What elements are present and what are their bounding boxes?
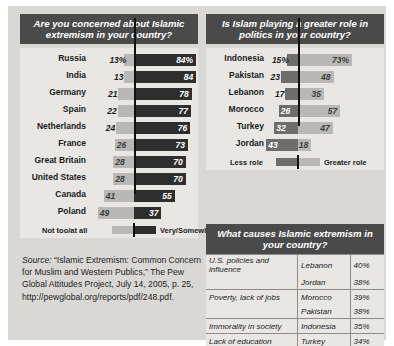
table-row: Lack of educationTurkey34% [206, 334, 384, 346]
chart-row: Lebanon1735 [206, 86, 384, 103]
country-cell: Indonesia [298, 319, 351, 334]
country-cell: Lebanon [298, 255, 351, 276]
bar-not-too-at-all [118, 88, 134, 100]
value-label-right: 76 [134, 123, 187, 133]
value-label-right: 84 [134, 72, 193, 82]
category-label: Great Britain [20, 155, 86, 165]
chart-row: United States2870 [20, 171, 198, 188]
value-label-left: 26 [281, 106, 290, 116]
category-label: Pakistan [206, 70, 264, 80]
value-label-left: 21 [103, 89, 117, 99]
value-label-left: 13 [109, 72, 123, 82]
category-label: Canada [20, 189, 86, 199]
zero-axis-line [134, 18, 136, 194]
percent-cell: 40% [350, 255, 384, 276]
chart-row: France2673 [20, 137, 198, 154]
panel-islam-politics: Is Islam playing a greater role in polit… [206, 14, 384, 170]
legend-label-right: Greater role [324, 158, 367, 167]
value-label-left: 22 [103, 106, 117, 116]
panel-title-causes: What causes Islamic extremism in your co… [206, 224, 384, 254]
value-label-left: 23 [266, 72, 280, 82]
value-label-right: 73 [134, 140, 185, 150]
chart-row: India1384 [20, 69, 198, 86]
percent-cell: 38% [350, 304, 384, 319]
country-cell: Jordan [298, 275, 351, 290]
category-label: Poland [20, 206, 86, 216]
category-label: France [20, 138, 86, 148]
bar-not-too-at-all [118, 105, 134, 117]
chart-rows-concern: Russia13%84%India1384Germany2178Spain227… [20, 52, 198, 222]
causes-table: U.S. policies and influenceLebanon40%Jor… [206, 254, 384, 346]
panel-title-concern: Are you concerned about Islamic extremis… [20, 14, 198, 44]
value-label-left: 17 [270, 89, 284, 99]
value-label-left: 43 [268, 140, 277, 150]
source-label: Source: [22, 255, 52, 265]
category-label: United States [20, 172, 86, 182]
value-label-right: 48 [298, 72, 331, 82]
panel-concern-extremism: Are you concerned about Islamic extremis… [20, 14, 198, 238]
infographic-sheet: Are you concerned about Islamic extremis… [8, 6, 386, 340]
panel-title-politics: Is Islam playing a greater role in polit… [206, 14, 384, 44]
value-label-left: 26 [117, 140, 126, 150]
value-label-left: 13% [109, 55, 123, 65]
legend-politics: Less roleGreater role [206, 154, 384, 170]
legend-concern: Not too/at allVery/Somewhat [20, 222, 198, 238]
value-label-right: 18 [298, 140, 308, 150]
category-label: Indonesia [206, 53, 264, 63]
chart-row: Indonesia15%73% [206, 52, 384, 69]
source-note: Source: “Islamic Extremism: Common Conce… [22, 254, 202, 303]
value-label-right: 55 [134, 191, 172, 201]
chart-row: Turkey3247 [206, 120, 384, 137]
chart-row: Netherlands2476 [20, 120, 198, 137]
value-label-right: 84% [134, 55, 193, 65]
country-cell: Morocco [298, 290, 351, 305]
value-label-left: 28 [115, 157, 124, 167]
legend-swatch-left [276, 158, 298, 166]
percent-cell: 38% [350, 275, 384, 290]
value-label-left: 15% [272, 55, 286, 65]
value-label-right: 47 [298, 123, 330, 133]
legend-label-left: Not too/at all [42, 226, 87, 235]
table-row: Poverty, lack of jobsMorocco39% [206, 290, 384, 305]
legend-axis-tick [133, 223, 135, 237]
cause-cell [206, 275, 298, 290]
value-label-right: 73% [298, 55, 349, 65]
bar-less-role [281, 71, 298, 83]
category-label: Netherlands [20, 121, 86, 131]
cause-cell: U.S. policies and influence [206, 255, 298, 276]
legend-swatch-right [298, 158, 320, 166]
category-label: Jordan [206, 138, 264, 148]
percent-cell: 34% [350, 334, 384, 346]
value-label-right: 78 [134, 89, 189, 99]
country-cell: Pakistan [298, 304, 351, 319]
cause-cell: Poverty, lack of jobs [206, 290, 298, 305]
cause-cell: Immorality in society [206, 319, 298, 334]
value-label-left: 41 [106, 191, 115, 201]
table-row: Immorality in societyIndonesia35% [206, 319, 384, 334]
table-row: Pakistan38% [206, 304, 384, 319]
bar-not-too-at-all [124, 71, 134, 83]
chart-row: Russia13%84% [20, 52, 198, 69]
country-cell: Turkey [298, 334, 351, 346]
chart-row: Great Britain2870 [20, 154, 198, 171]
value-label-left: 28 [115, 174, 124, 184]
chart-row: Canada4155 [20, 188, 198, 205]
value-label-right: 70 [134, 157, 183, 167]
chart-concern-extremism: Russia13%84%India1384Germany2178Spain227… [20, 48, 198, 238]
chart-row: Germany2178 [20, 86, 198, 103]
category-label: Germany [20, 87, 86, 97]
cause-cell [206, 304, 298, 319]
bar-not-too-at-all [116, 122, 134, 134]
value-label-right: 77 [134, 106, 188, 116]
category-label: Russia [20, 53, 86, 63]
category-label: Turkey [206, 121, 264, 131]
legend-swatch-left [112, 226, 134, 234]
zero-axis-line [298, 18, 300, 126]
category-label: India [20, 70, 86, 80]
table-row: U.S. policies and influenceLebanon40% [206, 255, 384, 276]
value-label-left: 32 [276, 123, 285, 133]
chart-islam-politics: Indonesia15%73%Pakistan2348Lebanon1735Mo… [206, 48, 384, 170]
value-label-right: 35 [298, 89, 321, 99]
value-label-right: 37 [134, 208, 158, 218]
value-label-right: 70 [134, 174, 183, 184]
